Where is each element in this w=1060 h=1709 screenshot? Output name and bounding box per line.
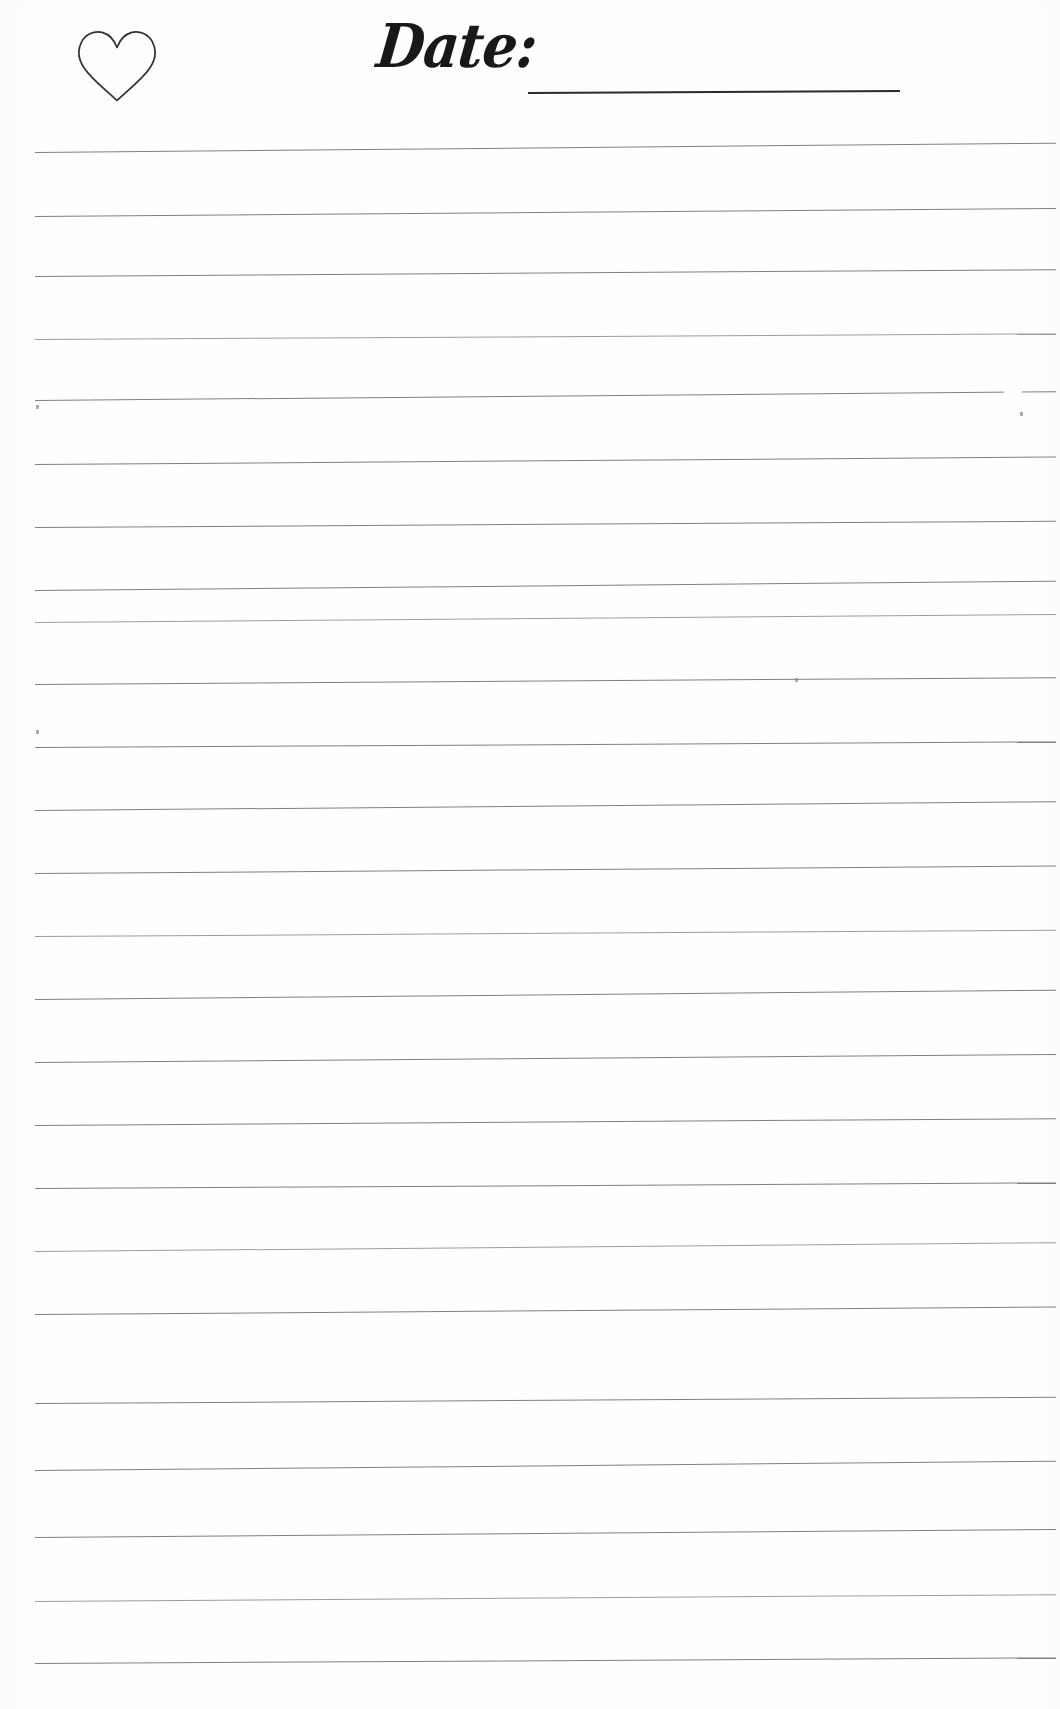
- ruled-line[interactable]: [35, 269, 1056, 277]
- ruled-line[interactable]: [35, 581, 1056, 591]
- ruled-line[interactable]: [35, 1118, 1056, 1126]
- ruled-line[interactable]: [35, 1054, 1056, 1063]
- scan-speck: [36, 405, 39, 409]
- ruled-line[interactable]: [35, 1182, 1056, 1189]
- ruled-line[interactable]: [35, 990, 1056, 1000]
- ruled-lines-area: [0, 0, 1060, 1709]
- ruled-line[interactable]: [35, 333, 1056, 340]
- ruled-line[interactable]: [35, 143, 1056, 153]
- ruled-line[interactable]: [35, 457, 1056, 465]
- ruled-line[interactable]: [35, 1529, 1056, 1538]
- ruled-line[interactable]: [35, 1242, 1056, 1252]
- ruled-line[interactable]: [35, 677, 1056, 685]
- ruled-line[interactable]: [35, 208, 1056, 217]
- scan-speck: [795, 678, 798, 682]
- ruled-line[interactable]: [35, 1307, 1056, 1315]
- ruled-line[interactable]: [35, 1397, 1056, 1404]
- ruled-line[interactable]: [35, 1657, 1056, 1664]
- journal-page: Date:: [0, 0, 1060, 1709]
- scan-speck: [36, 730, 39, 734]
- scan-speck: [1020, 412, 1023, 416]
- ruled-line[interactable]: [35, 866, 1056, 874]
- ruled-line[interactable]: [35, 521, 1056, 528]
- ruled-line[interactable]: [35, 930, 1056, 937]
- ruled-line[interactable]: [35, 1594, 1056, 1602]
- ruled-line[interactable]: [35, 1461, 1056, 1471]
- ruled-line[interactable]: [35, 741, 1056, 748]
- ruled-line[interactable]: [35, 391, 1056, 401]
- ruled-line[interactable]: [35, 801, 1056, 811]
- ruled-line[interactable]: [35, 614, 1056, 623]
